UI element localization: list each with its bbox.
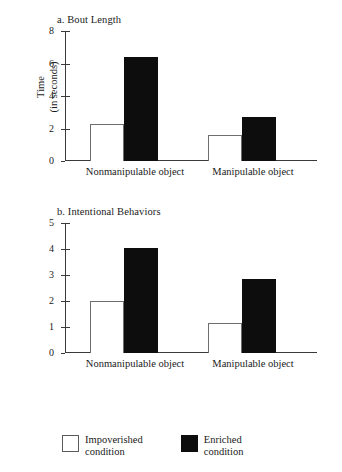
y-axis-label-line2: (in seconds): [47, 42, 60, 132]
y-tick-label: 3: [49, 270, 54, 280]
cat-line2: object: [158, 358, 184, 369]
y-tick-inner: [66, 223, 70, 224]
legend-label-line2: condition: [204, 446, 244, 458]
y-tick-label: 0: [49, 156, 54, 166]
bar-impoverished-nonmanipulable: [90, 301, 124, 353]
cat-line1: Manipulable: [212, 166, 265, 177]
legend-label-line1: Impoverished: [85, 434, 143, 446]
chart-panel-intentional-behaviors: b. Intentional Behaviors 012345 Nonmanip…: [0, 206, 342, 406]
cat-line2: object: [268, 358, 294, 369]
y-tick-inner: [66, 31, 70, 32]
bar-impoverished-nonmanipulable: [90, 124, 124, 161]
y-tick-inner: [66, 275, 70, 276]
cat-line1: Manipulable: [212, 358, 265, 369]
cat-line1: Nonmanipulable: [86, 358, 156, 369]
y-tick-0: 0: [61, 353, 65, 354]
legend-label-impoverished: Impoverished condition: [85, 434, 143, 458]
bar-enriched-manipulable: [242, 117, 276, 161]
cat-line1: Nonmanipulable: [86, 166, 156, 177]
y-tick-inner: [66, 301, 70, 302]
cat-line2: object: [158, 166, 184, 177]
y-tick-label: 5: [49, 218, 54, 228]
y-tick-5: 5: [61, 223, 65, 224]
panel-b-plot-area: 012345: [65, 223, 317, 353]
panel-a-category-label-nonmanipulable: Nonmanipulable object: [86, 166, 184, 179]
chart-legend: Impoverished condition Enriched conditio…: [62, 434, 243, 458]
bar-enriched-nonmanipulable: [124, 248, 158, 353]
y-tick-0: 0: [61, 161, 65, 162]
y-tick-4: 4: [61, 96, 65, 97]
y-tick-label: 4: [49, 244, 54, 254]
y-tick-inner: [66, 96, 70, 97]
y-tick-label: 8: [49, 26, 54, 36]
figure-bar-charts: a. Bout Length 02468 Time (in seconds) N…: [0, 0, 342, 472]
bar-enriched-manipulable: [242, 279, 276, 353]
y-tick-label: 1: [49, 322, 54, 332]
y-tick-label: 0: [49, 348, 54, 358]
y-tick-label: 2: [49, 296, 54, 306]
y-tick-1: 1: [61, 327, 65, 328]
panel-a-title: a. Bout Length: [57, 14, 121, 25]
y-tick-4: 4: [61, 249, 65, 250]
panel-b-title: b. Intentional Behaviors: [57, 206, 161, 217]
panel-a-y-axis-label: Time (in seconds): [34, 42, 60, 132]
legend-label-line2: condition: [85, 446, 143, 458]
chart-panel-bout-length: a. Bout Length 02468 Time (in seconds) N…: [0, 14, 342, 214]
legend-item-impoverished: Impoverished condition: [62, 434, 143, 458]
legend-label-enriched: Enriched condition: [204, 434, 244, 458]
y-axis-label-line1: Time: [34, 42, 47, 132]
legend-swatch-filled-icon: [181, 435, 198, 452]
legend-label-line1: Enriched: [204, 434, 244, 446]
legend-item-enriched: Enriched condition: [181, 434, 244, 458]
legend-swatch-open-icon: [62, 435, 79, 452]
y-tick-2: 2: [61, 301, 65, 302]
cat-line2: object: [268, 166, 294, 177]
y-tick-inner: [66, 249, 70, 250]
y-tick-3: 3: [61, 275, 65, 276]
y-tick-inner: [66, 129, 70, 130]
panel-b-category-label-nonmanipulable: Nonmanipulable object: [86, 358, 184, 371]
y-tick-8: 8: [61, 31, 65, 32]
panel-b-category-label-manipulable: Manipulable object: [212, 358, 293, 371]
panel-b-y-axis: [65, 223, 66, 353]
y-tick-2: 2: [61, 129, 65, 130]
bar-impoverished-manipulable: [208, 323, 242, 353]
bar-impoverished-manipulable: [208, 135, 242, 161]
bar-enriched-nonmanipulable: [124, 57, 158, 161]
panel-a-plot-area: 02468: [65, 31, 317, 161]
y-tick-6: 6: [61, 64, 65, 65]
panel-a-category-label-manipulable: Manipulable object: [212, 166, 293, 179]
y-tick-inner: [66, 64, 70, 65]
y-tick-inner: [66, 327, 70, 328]
